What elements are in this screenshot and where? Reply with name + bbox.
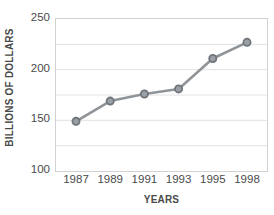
x-tick-label: 1993 [166,174,192,186]
x-tick-label: 1987 [63,174,89,186]
y-tick-label: 100 [16,164,50,176]
data-point-marker [72,118,79,125]
y-axis-title: BILLIONS OF DOLLARS [0,0,18,175]
gridlines [56,44,267,145]
x-axis-title: YEARS [55,194,268,205]
data-series [72,39,250,125]
data-point-marker [243,39,250,46]
x-tick-label: 1995 [200,174,226,186]
line-chart: BILLIONS OF DOLLARS 100150200250 1987198… [0,0,274,215]
y-axis-tick-labels: 100150200250 [16,0,50,215]
y-axis-title-text: BILLIONS OF DOLLARS [4,28,15,146]
x-tick-label: 1989 [97,174,123,186]
x-tick-label: 1998 [234,174,260,186]
y-tick-label: 200 [16,63,50,75]
data-point-marker [175,85,182,92]
plot-area [55,18,268,172]
data-point-marker [209,55,216,62]
y-tick-label: 250 [16,12,50,24]
data-point-marker [141,90,148,97]
data-point-marker [107,97,114,104]
plot-svg [56,19,267,171]
x-axis-tick-labels: 198719891991199319951998 [55,174,268,190]
series-line [76,42,247,121]
y-tick-label: 150 [16,114,50,126]
x-tick-label: 1991 [132,174,158,186]
